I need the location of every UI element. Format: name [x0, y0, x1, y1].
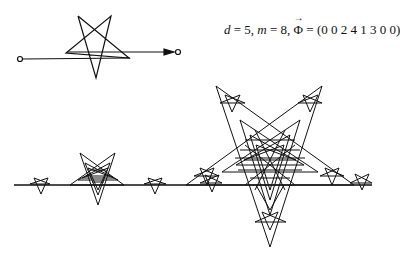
start-node-icon	[18, 57, 23, 62]
phi-vector-symbol: →Φ	[294, 22, 304, 38]
m-label: m	[257, 22, 266, 37]
generator-diagram	[18, 16, 181, 78]
vector-arrow-icon: →	[294, 13, 304, 23]
parameter-caption: d = 5, m = 8, →Φ = (0 0 2 4 1 3 0 0)	[224, 22, 400, 38]
phi-vector-value: (0 0 2 4 1 3 0 0)	[317, 22, 400, 37]
end-node-icon	[176, 50, 181, 55]
pentagram-fractal	[14, 86, 372, 247]
